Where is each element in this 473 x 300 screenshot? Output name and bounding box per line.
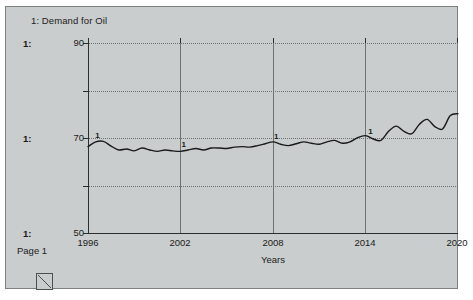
scale-label-middle: 1: [23, 133, 31, 144]
y-tick-label-70: 70 [44, 132, 84, 143]
graph-window: 1: Demand for Oil 1: 1: 1: Page 1 [5, 6, 458, 289]
graph-title: 1: Demand for Oil [31, 15, 107, 26]
series-1-line [88, 43, 458, 234]
x-tick-label-1996: 1996 [68, 237, 108, 248]
page-footer: Page 1 [17, 245, 47, 256]
series-marker-4: 1 [368, 127, 372, 136]
series-marker-2: 1 [182, 140, 186, 149]
x-tick-label-2020: 2020 [437, 237, 473, 248]
plot-area: 90 70 50 1996 2002 2008 2014 2020 Years … [88, 43, 458, 234]
series-marker-3: 1 [274, 132, 278, 141]
x-tick-label-2014: 2014 [345, 237, 385, 248]
scale-label-bottom: 1: [23, 228, 31, 239]
x-tick-label-2008: 2008 [253, 237, 293, 248]
resize-corner-icon[interactable] [36, 273, 53, 290]
series-marker-1: 1 [95, 131, 99, 140]
resize-diagonal-glyph [37, 274, 52, 289]
x-tick-label-2002: 2002 [160, 237, 200, 248]
scale-label-top: 1: [23, 38, 31, 49]
screenshot-root: 1: Demand for Oil 1: 1: 1: Page 1 [0, 0, 473, 300]
x-axis-title: Years [88, 254, 458, 265]
y-tick-label-90: 90 [44, 37, 84, 48]
